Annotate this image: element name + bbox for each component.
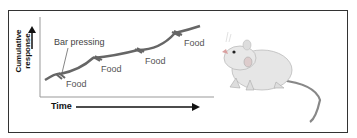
annotation-leader <box>62 48 68 73</box>
cumulative-record-plot <box>0 0 357 138</box>
time-arrow-head <box>192 103 200 111</box>
rat-image <box>222 32 320 122</box>
food-label: Food <box>145 56 166 66</box>
food-label: Food <box>184 38 205 48</box>
x-axis-label: Time <box>51 101 72 111</box>
food-label: Food <box>101 64 122 74</box>
bar-pressing-annotation: Bar pressing <box>54 37 105 47</box>
y-axis-label: Cumulativeresponse <box>14 16 32 86</box>
food-label: Food <box>66 79 87 89</box>
